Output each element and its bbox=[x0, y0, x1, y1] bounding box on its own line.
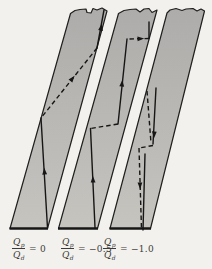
figure-canvas: Qp Qd = 0 Qp Qd = −0.5 Qp Qd = −1.0 bbox=[0, 0, 212, 269]
wave-propagation-diagram bbox=[0, 0, 212, 269]
ratio-label-0: Qp Qd = 0 bbox=[12, 236, 46, 262]
ratio-fraction: Qp Qd bbox=[61, 238, 74, 261]
fraction-numerator: Qp bbox=[62, 238, 73, 247]
ratio-value: = −1.0 bbox=[120, 245, 154, 254]
fraction-denominator: Qd bbox=[104, 251, 115, 260]
fraction-bar bbox=[12, 248, 25, 249]
fraction-numerator: Qp bbox=[13, 238, 24, 247]
fraction-denominator: Qd bbox=[13, 251, 24, 260]
ratio-fraction: Qp Qd bbox=[103, 238, 116, 261]
ratio-fraction: Qp Qd bbox=[12, 238, 25, 261]
fraction-denominator: Qd bbox=[62, 251, 73, 260]
ratio-value: = 0 bbox=[29, 245, 46, 254]
fraction-numerator: Qp bbox=[104, 238, 115, 247]
fraction-bar bbox=[103, 248, 116, 249]
fraction-bar bbox=[61, 248, 74, 249]
ratio-label-neg10: Qp Qd = −1.0 bbox=[103, 236, 154, 262]
